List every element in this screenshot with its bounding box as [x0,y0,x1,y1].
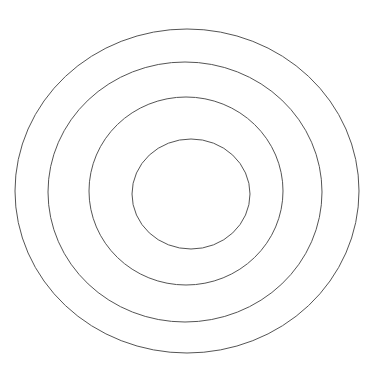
concentric-circles-figure [0,0,384,383]
figure-background [0,0,384,383]
figure-canvas [0,0,384,383]
